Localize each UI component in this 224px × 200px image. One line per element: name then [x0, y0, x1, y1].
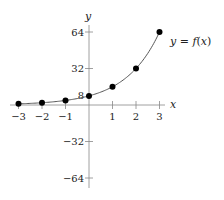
- x-tick-label: 3: [156, 111, 162, 122]
- y-tick-label: −64: [63, 173, 84, 184]
- y-axis-label: y: [84, 10, 92, 23]
- x-tick-label: −1: [58, 111, 73, 122]
- data-point: [157, 29, 163, 35]
- exponential-chart: −3−2−112364328−32−64 x y y = f(x): [0, 0, 224, 200]
- data-point: [39, 100, 45, 106]
- x-tick-label: 2: [133, 111, 139, 122]
- x-axis-label: x: [170, 98, 177, 111]
- data-point: [110, 84, 116, 90]
- x-tick-label: 1: [109, 111, 115, 122]
- y-tick-label: 64: [71, 27, 84, 38]
- data-point: [86, 93, 92, 99]
- data-point: [63, 97, 69, 103]
- y-tick-label: 8: [78, 90, 84, 101]
- data-point: [133, 66, 139, 72]
- axes: [10, 25, 165, 188]
- curve-label: y = f(x): [169, 35, 211, 48]
- x-tick-label: −3: [11, 111, 26, 122]
- y-tick-label: 32: [71, 63, 84, 74]
- y-tick-label: −32: [63, 136, 84, 147]
- x-tick-label: −2: [35, 111, 50, 122]
- data-point: [16, 101, 22, 107]
